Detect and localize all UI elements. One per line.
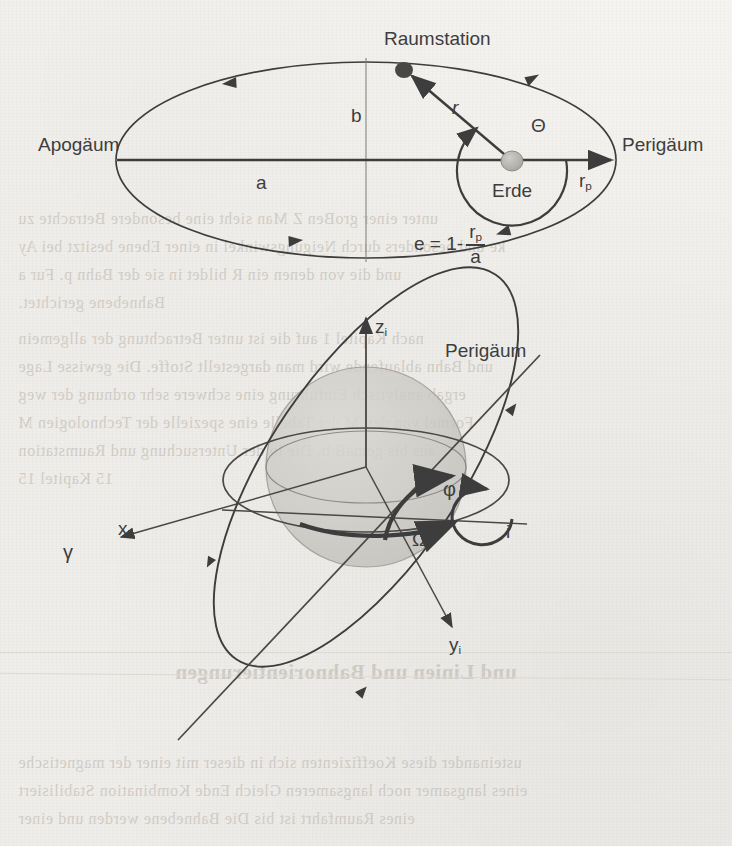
fraction-numerator: rp	[466, 222, 485, 244]
label-z-axis: zi	[375, 316, 387, 338]
true-anomaly-arc	[457, 128, 567, 225]
label-y-axis: yi	[449, 634, 461, 656]
label-apogaeum: Apogäum	[38, 134, 119, 156]
equation-fraction: rp a	[466, 222, 485, 266]
label-vernal-equinox-gamma: γ	[63, 541, 73, 564]
label-raumstation: Raumstation	[384, 28, 491, 50]
label-raan-omega: Ω	[412, 529, 426, 551]
perigee-radius-subscript: p	[585, 179, 592, 192]
eccentricity-equation: e = 1- rp a	[414, 222, 485, 266]
space-station-dot	[395, 62, 413, 78]
label-perigaeum-top: Perigäum	[622, 134, 703, 156]
label-true-anomaly-theta: Θ	[531, 115, 546, 137]
label-semi-major-axis: a	[256, 172, 267, 194]
earth-body	[501, 151, 523, 171]
equation-lhs: e = 1-	[414, 233, 463, 255]
fraction-denominator: a	[467, 246, 484, 266]
inclination-arc	[452, 489, 512, 545]
label-argument-of-perigee-phi: φ	[443, 478, 456, 501]
label-erde: Erde	[492, 180, 532, 202]
orbit-direction-arrows	[221, 70, 541, 247]
label-radius-r: r	[452, 97, 458, 119]
top-figure-group	[116, 58, 616, 262]
bottom-figure-group	[121, 221, 575, 740]
label-perigaeum-bottom: Perigäum	[445, 340, 526, 362]
label-x-axis: xi	[118, 518, 130, 540]
label-inclination-i: i	[506, 521, 510, 543]
label-semi-minor-axis: b	[351, 105, 362, 127]
orbit-figures-svg	[0, 0, 732, 846]
label-perigee-radius: rp	[579, 170, 592, 192]
